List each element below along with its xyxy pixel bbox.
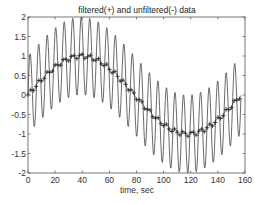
x-tick-label: 80 bbox=[132, 175, 142, 185]
x-tick-label: 160 bbox=[238, 175, 252, 185]
y-tick-label: -1 bbox=[18, 129, 26, 139]
y-tick-label: 0.5 bbox=[14, 71, 26, 81]
figure: filtered(+) and unfiltered(-) data 02040… bbox=[0, 0, 263, 205]
chart-title: filtered(+) and unfiltered(-) data bbox=[78, 5, 196, 15]
y-tick-label: -1.5 bbox=[11, 149, 26, 159]
plot-area bbox=[26, 17, 242, 173]
y-tick-label: 2 bbox=[21, 12, 26, 22]
x-tick-label: 100 bbox=[157, 175, 171, 185]
y-tick-label: -0.5 bbox=[11, 110, 26, 120]
x-tick-label: 120 bbox=[184, 175, 198, 185]
x-tick-label: 40 bbox=[78, 175, 88, 185]
x-tick-label: 60 bbox=[105, 175, 115, 185]
y-tick-label: 1.5 bbox=[14, 32, 26, 42]
x-tick-label: 140 bbox=[211, 175, 225, 185]
line-chart: filtered(+) and unfiltered(-) data 02040… bbox=[0, 0, 263, 205]
x-axis-label: time, sec bbox=[120, 185, 155, 195]
y-tick-label: -2 bbox=[18, 168, 26, 178]
y-tick-label: 0 bbox=[21, 90, 26, 100]
y-tick-label: 1 bbox=[21, 51, 26, 61]
x-tick-label: 0 bbox=[26, 175, 31, 185]
x-tick-label: 20 bbox=[50, 175, 60, 185]
